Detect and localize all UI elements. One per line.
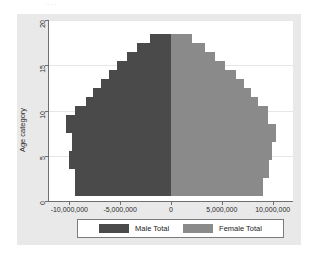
bar-male-age-5 — [69, 151, 171, 160]
bar-female-age-9 — [171, 115, 268, 124]
bar-female-age-1 — [171, 187, 263, 196]
bar-female-age-6 — [171, 142, 272, 151]
x-tick-label: -10,000,000 — [51, 206, 88, 213]
bar-female-age-5 — [171, 151, 272, 160]
bar-female-age-4 — [171, 160, 269, 169]
bar-female-age-16 — [171, 52, 215, 61]
bar-female-age-8 — [171, 124, 276, 133]
y-tick-label: 10 — [40, 111, 47, 119]
bar-male-age-18 — [150, 34, 171, 43]
gridline — [49, 20, 293, 21]
legend: Male Total Female Total — [77, 219, 284, 238]
x-tick — [222, 201, 223, 205]
legend-label-male: Male Total — [135, 224, 169, 233]
y-tick-label: 15 — [40, 65, 47, 73]
bar-male-age-7 — [72, 133, 171, 142]
bar-female-age-15 — [171, 61, 225, 70]
screenshot-root: ···· Age category 05101520 -10,000,000-5… — [0, 0, 316, 259]
legend-label-female: Female Total — [219, 224, 262, 233]
x-tick — [120, 201, 121, 205]
x-tick — [69, 201, 70, 205]
graph-region: Age category 05101520 -10,000,000-5,000,… — [17, 14, 301, 245]
y-tick-label: 5 — [40, 156, 47, 160]
bar-male-age-13 — [101, 79, 171, 88]
bar-female-age-7 — [171, 133, 276, 142]
bar-male-age-6 — [72, 142, 171, 151]
legend-swatch-male-icon — [99, 224, 129, 233]
bar-male-age-1 — [75, 187, 171, 196]
bar-male-age-12 — [93, 88, 171, 97]
x-tick-label: 10,000,000 — [255, 206, 290, 213]
bar-female-age-14 — [171, 70, 236, 79]
bar-male-age-10 — [75, 106, 171, 115]
bar-male-age-4 — [69, 160, 171, 169]
legend-swatch-female-icon — [183, 224, 213, 233]
y-tick-label: 20 — [40, 20, 47, 28]
x-tick-label: 0 — [169, 206, 173, 213]
bar-male-age-11 — [86, 97, 171, 106]
x-tick-label: -5,000,000 — [103, 206, 136, 213]
bar-female-age-18 — [171, 34, 192, 43]
bar-male-age-2 — [75, 178, 171, 187]
bar-female-age-3 — [171, 169, 269, 178]
bar-male-age-17 — [137, 43, 171, 52]
bar-male-age-15 — [117, 61, 171, 70]
bar-female-age-17 — [171, 43, 205, 52]
bar-female-age-11 — [171, 97, 258, 106]
bar-female-age-10 — [171, 106, 268, 115]
bar-male-age-14 — [109, 70, 171, 79]
x-tick — [171, 201, 172, 205]
bar-female-age-12 — [171, 88, 251, 97]
x-tick-label: 5,000,000 — [206, 206, 237, 213]
bar-male-age-3 — [75, 169, 171, 178]
x-tick — [273, 201, 274, 205]
bar-male-age-8 — [66, 124, 171, 133]
plot-area: 05101520 -10,000,000-5,000,00005,000,000… — [48, 20, 293, 202]
bar-male-age-9 — [66, 115, 171, 124]
y-tick-label: 0 — [40, 201, 47, 205]
cropped-text-artifact: ···· — [44, 1, 90, 8]
y-axis-title: Age category — [18, 107, 27, 151]
bar-female-age-13 — [171, 79, 244, 88]
legend-item-female[interactable]: Female Total — [183, 224, 262, 233]
legend-item-male[interactable]: Male Total — [99, 224, 169, 233]
bar-female-age-2 — [171, 178, 263, 187]
plot-inner — [49, 20, 293, 201]
bar-male-age-16 — [127, 52, 171, 61]
